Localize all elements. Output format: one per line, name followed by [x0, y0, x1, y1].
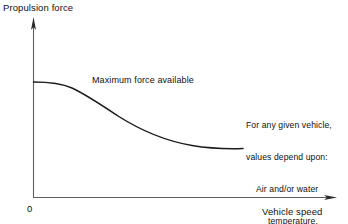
y-axis-title: Propulsion force: [3, 2, 73, 13]
note-line-3: Air and/or water: [246, 184, 348, 195]
dependency-note-block: For any given vehicle, values depend upo…: [246, 99, 348, 224]
max-force-curve: [34, 82, 244, 149]
propulsion-force-figure: Propulsion force Vehicle speed 0 Maximum…: [0, 0, 348, 224]
note-line-4: temperature,: [246, 216, 348, 224]
note-line-1: For any given vehicle,: [246, 120, 348, 131]
origin-label: 0: [27, 203, 32, 214]
note-line-2: values depend upon:: [246, 152, 348, 163]
max-force-curve-label: Maximum force available: [92, 75, 194, 85]
